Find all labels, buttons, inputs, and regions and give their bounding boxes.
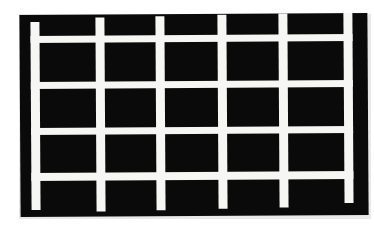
- black-plate: [19, 13, 368, 217]
- vertical-bar-3: [155, 16, 165, 210]
- vertical-bar-2: [95, 18, 105, 212]
- image-canvas: [0, 0, 374, 228]
- horizontal-bar-2: [31, 80, 353, 89]
- horizontal-bar-4: [31, 171, 353, 181]
- white-grid-overlay: [19, 13, 368, 217]
- horizontal-bar-1: [31, 34, 353, 43]
- horizontal-bar-3: [31, 126, 353, 135]
- vertical-bar-1: [30, 22, 40, 210]
